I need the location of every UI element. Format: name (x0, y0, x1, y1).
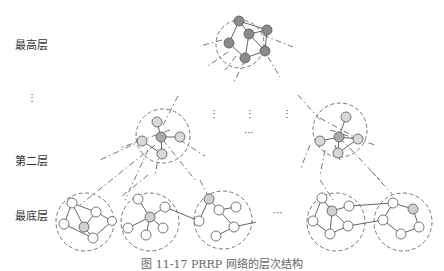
figure-caption: 图 11-17 PRRP 网络的层次结构 (0, 255, 444, 271)
